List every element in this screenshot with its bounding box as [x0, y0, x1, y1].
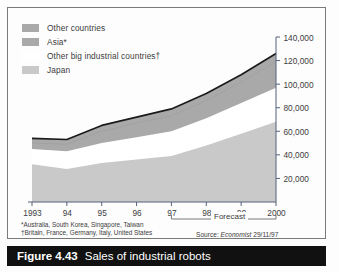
footnote-other-big-industrial: †Britain, France, Germany, Italy, United…: [21, 229, 152, 237]
legend-swatch-japan: [22, 66, 39, 74]
chart-footnotes: *Australia, South Korea, Singapore, Taiw…: [21, 221, 152, 237]
y-tick-label-120000: 120,000: [284, 56, 314, 66]
footnote-asia: *Australia, South Korea, Singapore, Taiw…: [21, 221, 152, 229]
figure-caption-bar: Figure 4.43 Sales of industrial robots: [7, 246, 326, 266]
source-date: 29/11/97: [253, 231, 278, 238]
x-tick-label-1993: 1993: [16, 208, 50, 218]
figure-container: Other countries Asia* Other big industri…: [0, 0, 339, 272]
y-tick-label-20000: 20,000: [284, 174, 309, 184]
figure-caption-number: Figure 4.43: [17, 250, 78, 262]
figure-caption-title: Sales of industrial robots: [85, 250, 211, 262]
x-tick-label-2000: 2000: [260, 208, 294, 218]
y-tick-label-140000: 140,000: [284, 33, 314, 43]
y-tick-label-60000: 60,000: [284, 127, 309, 137]
legend-label-japan: Japan: [47, 65, 70, 75]
y-tick-label-100000: 100,000: [284, 80, 314, 90]
legend-item-other-big-industrial-countries: Other big industrial countries†: [22, 50, 160, 62]
source-prefix: Source:: [196, 231, 219, 238]
x-tick-label-94: 94: [50, 208, 84, 218]
legend-item-asia: Asia*: [22, 36, 160, 48]
source-name: Economist: [221, 231, 252, 238]
legend-label-asia: Asia*: [47, 37, 67, 47]
chart-source: Source: Economist 29/11/97: [196, 231, 278, 238]
y-tick-label-80000: 80,000: [284, 103, 309, 113]
y-tick-label-40000: 40,000: [284, 150, 309, 160]
legend-swatch-other-big-industrial-countries: [22, 52, 39, 60]
x-tick-label-96: 96: [120, 208, 154, 218]
legend-label-other-countries: Other countries: [47, 23, 105, 33]
legend-swatch-asia: [22, 38, 39, 46]
legend-item-japan: Japan: [22, 64, 160, 76]
legend-swatch-other-countries: [22, 24, 39, 32]
legend-label-other-big-industrial-countries: Other big industrial countries†: [47, 51, 160, 61]
legend-item-other-countries: Other countries: [22, 22, 160, 34]
chart-legend: Other countries Asia* Other big industri…: [22, 22, 160, 78]
x-tick-label-97: 97: [155, 208, 189, 218]
x-tick-label-95: 95: [85, 208, 119, 218]
forecast-label: Forecast: [211, 212, 248, 221]
